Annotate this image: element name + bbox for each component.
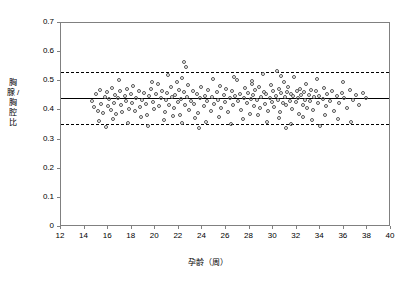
data-point bbox=[248, 112, 252, 116]
data-point bbox=[249, 97, 253, 101]
data-point bbox=[223, 100, 227, 104]
data-point bbox=[196, 111, 200, 115]
data-point bbox=[301, 103, 305, 107]
data-point bbox=[231, 103, 235, 107]
data-point bbox=[118, 89, 122, 93]
x-tick-mark bbox=[343, 226, 344, 229]
data-point bbox=[137, 89, 141, 93]
data-point bbox=[103, 95, 107, 99]
data-point bbox=[226, 110, 230, 114]
data-point bbox=[294, 100, 298, 104]
y-tick-label: 0.5 bbox=[30, 75, 54, 84]
data-point bbox=[104, 125, 108, 129]
data-point bbox=[284, 103, 288, 107]
x-axis-title: 孕龄（周） bbox=[0, 256, 415, 267]
data-point bbox=[303, 98, 307, 102]
x-tick-label: 30 bbox=[262, 231, 282, 240]
data-point bbox=[156, 82, 160, 86]
data-point bbox=[183, 103, 187, 107]
data-point bbox=[142, 91, 146, 95]
data-point bbox=[205, 99, 209, 103]
x-tick-mark bbox=[272, 226, 273, 229]
data-point bbox=[243, 86, 247, 90]
data-point bbox=[184, 65, 188, 69]
y-axis-title: 胸腺 / 胸腔比 bbox=[6, 78, 20, 128]
x-tick-mark bbox=[178, 226, 179, 229]
data-point bbox=[134, 96, 138, 100]
data-point bbox=[110, 86, 114, 90]
data-point bbox=[258, 106, 262, 110]
data-point bbox=[124, 99, 128, 103]
data-point bbox=[119, 103, 123, 107]
data-point bbox=[309, 88, 313, 92]
data-point bbox=[361, 91, 365, 95]
data-point bbox=[150, 80, 154, 84]
data-point bbox=[107, 97, 111, 101]
data-point bbox=[130, 101, 134, 105]
data-point bbox=[182, 60, 186, 64]
data-point bbox=[172, 106, 176, 110]
data-point bbox=[204, 120, 208, 124]
data-point bbox=[310, 118, 314, 122]
data-point bbox=[222, 93, 226, 97]
data-point bbox=[92, 105, 96, 109]
data-point bbox=[127, 107, 131, 111]
data-point bbox=[290, 107, 294, 111]
x-tick-mark bbox=[225, 226, 226, 229]
data-point bbox=[340, 91, 344, 95]
x-tick-label: 34 bbox=[309, 231, 329, 240]
data-point bbox=[211, 77, 215, 81]
data-point bbox=[111, 117, 115, 121]
data-point bbox=[157, 104, 161, 108]
x-tick-label: 20 bbox=[144, 231, 164, 240]
data-point bbox=[180, 76, 184, 80]
data-point bbox=[314, 89, 318, 93]
data-point bbox=[210, 95, 214, 99]
data-point bbox=[256, 113, 260, 117]
data-point bbox=[139, 115, 143, 119]
data-point bbox=[160, 89, 164, 93]
data-point bbox=[229, 122, 233, 126]
data-point bbox=[305, 106, 309, 110]
data-point bbox=[302, 90, 306, 94]
data-point bbox=[151, 100, 155, 104]
data-point bbox=[304, 82, 308, 86]
data-point bbox=[192, 102, 196, 106]
data-point bbox=[120, 110, 124, 114]
data-point bbox=[288, 99, 292, 103]
y-tick-label: 0.4 bbox=[30, 104, 54, 113]
y-tick-label: 0.6 bbox=[30, 46, 54, 55]
data-point bbox=[173, 93, 177, 97]
data-point bbox=[284, 126, 288, 130]
data-point bbox=[270, 100, 274, 104]
data-point bbox=[163, 110, 167, 114]
data-point bbox=[98, 88, 102, 92]
data-point bbox=[245, 101, 249, 105]
data-point bbox=[133, 109, 137, 113]
data-point bbox=[246, 91, 250, 95]
data-point bbox=[348, 88, 352, 92]
data-point bbox=[235, 78, 239, 82]
data-point bbox=[179, 97, 183, 101]
plot-area bbox=[60, 22, 390, 226]
y-tick-label: 0.2 bbox=[30, 163, 54, 172]
data-point bbox=[109, 108, 113, 112]
data-point bbox=[269, 83, 273, 87]
data-point bbox=[165, 91, 169, 95]
data-point bbox=[261, 72, 265, 76]
x-tick-label: 36 bbox=[333, 231, 353, 240]
data-point bbox=[228, 96, 232, 100]
data-point bbox=[324, 104, 328, 108]
data-point bbox=[316, 101, 320, 105]
y-tick-label: 0.7 bbox=[30, 17, 54, 26]
data-point bbox=[364, 96, 368, 100]
data-point bbox=[138, 105, 142, 109]
data-point bbox=[129, 92, 133, 96]
data-point bbox=[239, 108, 243, 112]
data-point bbox=[164, 98, 168, 102]
data-point bbox=[230, 89, 234, 93]
x-tick-mark bbox=[131, 226, 132, 229]
data-point bbox=[271, 89, 275, 93]
data-point bbox=[276, 98, 280, 102]
data-point bbox=[152, 107, 156, 111]
